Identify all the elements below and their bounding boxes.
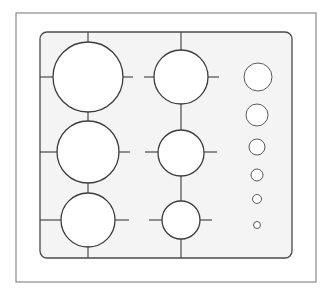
burner-middle-top — [154, 50, 208, 104]
burner-left-top — [53, 42, 123, 112]
knob-2 — [246, 104, 268, 126]
knob-1 — [244, 63, 272, 91]
burner-middle-bottom — [162, 201, 200, 239]
burner-left-middle — [57, 121, 119, 183]
cooktop-diagram — [0, 0, 331, 291]
knob-4 — [251, 169, 263, 181]
burner-left-bottom — [61, 193, 115, 247]
knob-3 — [249, 139, 265, 155]
knob-6 — [254, 222, 261, 229]
burner-middle-middle — [158, 130, 204, 176]
knob-5 — [253, 195, 262, 204]
